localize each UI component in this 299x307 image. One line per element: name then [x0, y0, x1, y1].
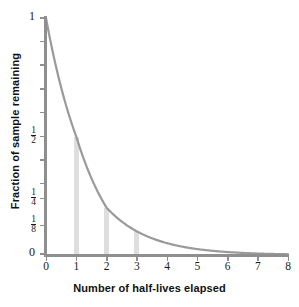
decay-curve-path — [46, 18, 288, 254]
y-axis-title: Fraction of sample remaining — [9, 31, 21, 231]
y-tick-major-1-8 — [40, 225, 45, 227]
y-tick-minor — [40, 41, 45, 43]
fraction-numerator: 1 — [31, 126, 36, 135]
x-tick-label-3: 3 — [127, 260, 147, 272]
y-tick-major-1-4 — [40, 198, 45, 200]
y-tick-minor — [40, 112, 45, 114]
x-tick-label-7: 7 — [248, 260, 268, 272]
fraction-numerator: 1 — [31, 215, 36, 224]
fraction-one-half: 1 2 — [31, 126, 36, 145]
fraction-numerator: 1 — [31, 188, 36, 197]
fraction-one-quarter: 1 4 — [31, 188, 36, 207]
y-tick-major-1-2 — [40, 136, 45, 138]
fraction-denominator: 8 — [31, 224, 36, 234]
x-tick-label-4: 4 — [157, 260, 177, 272]
y-tick-minor — [40, 183, 45, 185]
fraction-denominator: 4 — [31, 197, 36, 207]
y-tick-minor — [40, 64, 45, 66]
x-tick-label-2: 2 — [97, 260, 117, 272]
y-tick-minor — [40, 159, 45, 161]
x-tick-label-5: 5 — [187, 260, 207, 272]
y-tick-label-one-half: 1 2 — [31, 126, 36, 145]
y-tick-major-1 — [40, 17, 45, 19]
y-tick-label-one-quarter: 1 4 — [31, 188, 36, 207]
x-tick-label-8: 8 — [278, 260, 298, 272]
y-tick-label-1: 1 — [29, 10, 35, 22]
x-tick-label-6: 6 — [218, 260, 238, 272]
y-tick-major-0 — [40, 253, 45, 255]
x-tick-label-1: 1 — [66, 260, 86, 272]
fraction-one-eighth: 1 8 — [31, 215, 36, 234]
y-tick-label-0: 0 — [29, 246, 35, 258]
fraction-denominator: 2 — [31, 135, 36, 145]
y-tick-label-one-eighth: 1 8 — [31, 215, 36, 234]
half-life-decay-chart: 1 1 2 1 4 1 8 — [0, 0, 299, 307]
x-tick-label-0: 0 — [36, 260, 56, 272]
x-axis-title: Number of half-lives elapsed — [0, 282, 299, 294]
y-tick-minor — [40, 88, 45, 90]
